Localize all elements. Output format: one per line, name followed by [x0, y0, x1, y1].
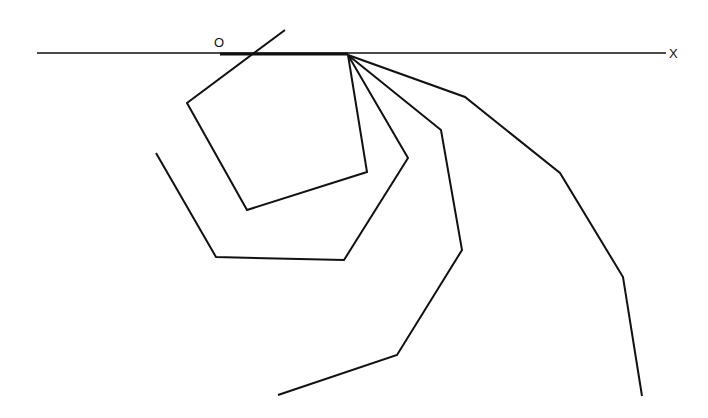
polygon-construction-diagram — [0, 0, 708, 418]
pentagon-path — [187, 30, 367, 210]
heptagon-path — [278, 55, 462, 395]
origin-label: O — [214, 36, 224, 49]
x-axis-label: X — [669, 47, 678, 60]
octagon-path — [348, 55, 642, 396]
hexagon-path — [156, 55, 408, 260]
